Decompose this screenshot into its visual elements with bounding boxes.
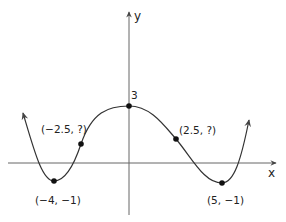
point-right-mid-label: (2.5, ?) [179, 125, 216, 136]
point-right-min-label: (5, −1) [207, 195, 244, 206]
point-left-mid-label: (−2.5, ?) [41, 124, 87, 135]
point-right-min [219, 180, 225, 186]
point-right-mid [173, 136, 179, 142]
y-axis-label: y [134, 10, 141, 22]
point-left-min-label: (−4, −1) [35, 195, 81, 206]
x-axis-label: x [268, 167, 275, 179]
point-left-min [51, 178, 57, 184]
function-curve [23, 106, 249, 183]
point-left-mid [78, 141, 84, 147]
y-intercept-label: 3 [131, 90, 138, 101]
point-max [126, 103, 132, 109]
plot-area [0, 0, 286, 222]
